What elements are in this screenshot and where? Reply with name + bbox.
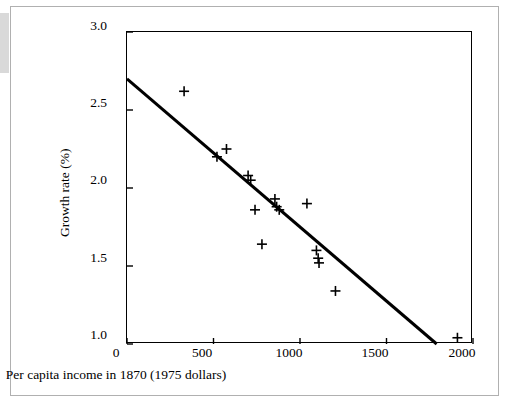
plot-area — [126, 31, 472, 343]
data-point-marker — [452, 333, 462, 343]
chart-canvas — [127, 32, 473, 344]
figure-frame: 3.0 2.5 2.0 1.5 1.0 0 500 1000 1500 2000… — [10, 6, 499, 396]
x-tick-label-1000: 1000 — [266, 345, 312, 361]
y-tick-label-1.5: 1.5 — [73, 250, 107, 266]
data-point-marker — [330, 286, 340, 296]
data-point-marker — [257, 239, 267, 249]
y-axis-title: Growth rate (%) — [57, 149, 73, 237]
data-point-marker — [314, 258, 324, 268]
data-point-marker — [179, 86, 189, 96]
x-tick-label-0: 0 — [93, 345, 139, 361]
page-edge-strip — [0, 0, 9, 410]
plot-inner — [127, 32, 471, 342]
y-tick-label-3.0: 3.0 — [73, 18, 107, 34]
data-point-marker — [250, 205, 260, 215]
x-axis-title: Per capita income in 1870 (1975 dollars) — [0, 367, 316, 383]
y-tick-label-2.5: 2.5 — [73, 95, 107, 111]
x-tick-label-2000: 2000 — [439, 345, 485, 361]
y-tick-label-2.0: 2.0 — [73, 172, 107, 188]
data-point-marker — [313, 253, 323, 263]
data-point-marker — [311, 245, 321, 255]
x-tick-label-500: 500 — [179, 345, 225, 361]
data-point-marker — [221, 144, 231, 154]
x-tick-label-1500: 1500 — [352, 345, 398, 361]
figure-container: 3.0 2.5 2.0 1.5 1.0 0 500 1000 1500 2000… — [0, 0, 507, 410]
regression-line — [127, 79, 437, 344]
data-point-marker — [302, 199, 312, 209]
y-tick-label-1.0: 1.0 — [73, 327, 107, 343]
edge-grey-bar — [0, 13, 9, 73]
